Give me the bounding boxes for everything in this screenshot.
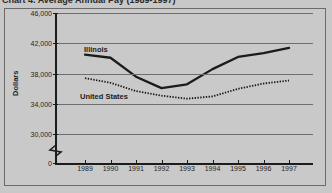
x-tick-label: 1992 <box>154 165 170 172</box>
plot-area <box>55 13 313 163</box>
y-tick-label: 38,000 <box>31 70 52 77</box>
y-tick-mark <box>53 74 58 75</box>
x-tick-label: 1995 <box>230 165 246 172</box>
gridline <box>55 13 313 14</box>
y-axis-line <box>55 13 57 163</box>
x-tick-label: 1991 <box>128 165 144 172</box>
gridline <box>55 134 313 135</box>
chart-figure: Chart 4. Average Annual Pay (1989-1997) … <box>0 0 332 193</box>
x-tick-mark <box>85 160 86 164</box>
x-tick-label: 1993 <box>179 165 195 172</box>
y-tick-mark <box>53 163 58 164</box>
x-tick-mark <box>111 160 112 164</box>
series-label-illinois: Illinois <box>84 45 108 54</box>
x-tick-mark <box>264 160 265 164</box>
x-tick-label: 1997 <box>281 165 297 172</box>
x-tick-mark <box>136 160 137 164</box>
x-tick-mark <box>187 160 188 164</box>
x-tick-mark <box>213 160 214 164</box>
x-tick-mark <box>162 160 163 164</box>
x-tick-label: 1989 <box>77 165 93 172</box>
series-label-united-states: United States <box>80 92 128 101</box>
y-tick-mark <box>53 134 58 135</box>
x-tick-mark <box>289 160 290 164</box>
y-tick-label: 42,000 <box>31 40 52 47</box>
gridline <box>55 104 313 105</box>
x-tick-label: 1996 <box>256 165 272 172</box>
y-tick-mark <box>53 43 58 44</box>
y-axis-ticks: 030,00034,00038,00042,00046,000 <box>0 0 52 193</box>
y-tick-mark <box>53 104 58 105</box>
y-tick-label: 30,000 <box>31 131 52 138</box>
x-tick-label: 1990 <box>103 165 119 172</box>
gridline <box>55 74 313 75</box>
gridlines <box>55 13 313 163</box>
y-tick-label: 46,000 <box>31 10 52 17</box>
x-tick-mark <box>238 160 239 164</box>
y-tick-mark <box>53 13 58 14</box>
y-tick-label: 34,000 <box>31 101 52 108</box>
x-tick-label: 1994 <box>205 165 221 172</box>
